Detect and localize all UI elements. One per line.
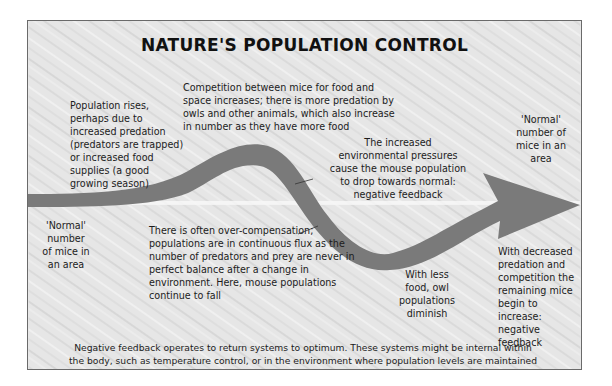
label-decreased-predation: With decreased predation and competition…	[498, 245, 576, 349]
label-over-compensation: There is often over-compensation; popula…	[149, 224, 361, 302]
label-normal-right: 'Normal' number of mice in an area	[516, 113, 566, 165]
label-owl-diminish: With less food, owl populations diminish	[398, 268, 456, 320]
label-competition: Competition between mice for food and sp…	[183, 81, 398, 133]
label-environmental-pressures: The increased environmental pressures ca…	[328, 136, 468, 201]
label-normal-left: 'Normal' number of mice in an area	[42, 219, 90, 271]
footer-caption: Negative feedback operates to return sys…	[68, 341, 538, 367]
diagram-frame: NATURE'S POPULATION CONTROL Competition …	[27, 20, 582, 370]
diagram-title: NATURE'S POPULATION CONTROL	[28, 35, 581, 55]
label-population-rises: Population rises, perhaps due to increas…	[70, 99, 188, 190]
